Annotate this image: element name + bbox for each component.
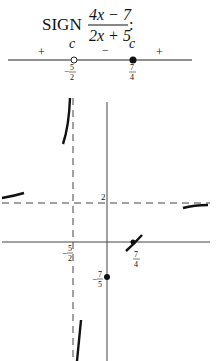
title-denominator: 2x + 5 [89, 27, 131, 44]
y-intercept-point [104, 274, 110, 280]
title-prefix: SIGN [42, 15, 82, 34]
label-num: 7 [130, 63, 134, 72]
curve-left-upper [63, 98, 70, 144]
yint-den: 5 [98, 280, 102, 289]
sign-diagram: SIGN 4x − 7 2x + 5 : + − + c c − 5 2 7 4… [0, 0, 220, 361]
va-num: 5 [68, 244, 72, 253]
label-minus-sign: − [64, 66, 69, 76]
critical-tag-1: c [69, 36, 76, 51]
curve-right-lower [77, 320, 81, 361]
label-den: 4 [130, 73, 134, 82]
yint-minus: − [92, 274, 97, 284]
title-colon: : [129, 16, 133, 33]
sign-right: + [156, 45, 163, 59]
va-den: 2 [68, 254, 72, 263]
xint-den: 4 [134, 260, 138, 269]
critical-tag-2: c [129, 36, 136, 51]
label-den: 2 [70, 73, 74, 82]
title-numerator: 4x − 7 [89, 6, 132, 23]
xint-num: 7 [134, 250, 138, 259]
curve-right-tail [183, 205, 208, 208]
va-minus: − [62, 248, 67, 258]
curve-left-tail [2, 193, 24, 198]
x-intercept-point [131, 240, 136, 245]
yint-num: 7 [98, 270, 102, 279]
label-num: 5 [70, 63, 74, 72]
ha-label: 2 [101, 192, 106, 202]
sign-left: + [38, 45, 45, 59]
sign-middle: − [102, 43, 109, 57]
